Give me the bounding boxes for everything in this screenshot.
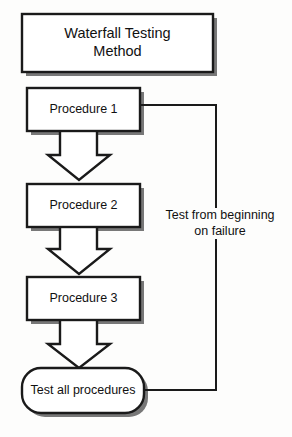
block-arrow-proc3-test: [48, 320, 110, 368]
test-all-procedures-box: [22, 368, 144, 413]
block-arrow-proc1-proc2: [48, 131, 110, 180]
title-box: [22, 14, 213, 72]
procedure-3-box: [27, 277, 140, 320]
feedback-loop-label: Test from beginning on failure: [155, 208, 285, 239]
procedure-2-box: [27, 184, 140, 227]
block-arrow-proc2-proc3: [48, 227, 110, 274]
flowchart-canvas: Waterfall Testing Method Procedure 1 Pro…: [0, 0, 292, 437]
procedure-1-box: [27, 88, 140, 131]
